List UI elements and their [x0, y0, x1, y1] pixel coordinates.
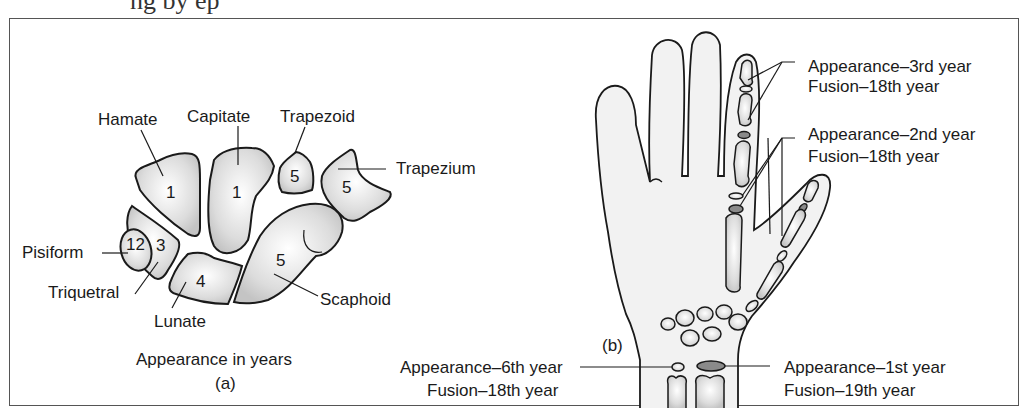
capitate-label: Capitate	[187, 107, 250, 126]
annotation-ulna-appearance: Appearance–6th year	[400, 358, 563, 377]
proximal-phalanx	[734, 141, 750, 186]
trapezoid-year: 5	[290, 167, 299, 186]
triquetral-label: Triquetral	[48, 283, 119, 302]
lunate-bone	[169, 253, 242, 304]
metacarpal	[726, 214, 742, 292]
annotation-proximal-fusion: Fusion–18th year	[808, 147, 940, 166]
lunate-year: 4	[196, 272, 205, 291]
panel-a-caption: Appearance in years	[136, 350, 292, 369]
hamate-year: 1	[166, 183, 175, 202]
triquetral-year: 3	[156, 236, 165, 255]
carpal	[681, 330, 699, 346]
lunate-label: Lunate	[154, 312, 206, 331]
ulna-epiphysis	[672, 363, 684, 371]
hamate-label: Hamate	[98, 110, 158, 129]
trapezoid-label: Trapezoid	[280, 107, 355, 126]
distal-phalanx	[740, 60, 752, 85]
carpal	[676, 310, 694, 326]
epiphysis-middle	[738, 132, 750, 139]
radius	[696, 376, 725, 408]
scaphoid-label: Scaphoid	[320, 290, 391, 309]
epiphysis-proximal	[729, 193, 743, 199]
panel-b-hand: Appearance–3rd year Fusion–18th year App…	[400, 32, 976, 408]
annotation-distal-appearance: Appearance–3rd year	[808, 57, 972, 76]
carpal	[703, 327, 721, 341]
panel-a-label: (a)	[215, 374, 236, 393]
carpal	[661, 318, 675, 330]
panel-b-label: (b)	[602, 336, 623, 355]
carpal	[716, 305, 732, 319]
annotation-radius-appearance: Appearance–1st year	[784, 358, 946, 377]
trapezium-label: Trapezium	[396, 159, 476, 178]
carpal	[729, 314, 747, 330]
epiphysis-metacarpal-head	[729, 205, 743, 213]
ulna	[668, 376, 687, 408]
epiphysis-distal	[740, 86, 752, 92]
capitate-year: 1	[232, 183, 241, 202]
pisiform-year: 12	[126, 235, 145, 254]
scaphoid-year: 5	[276, 251, 285, 270]
pisiform-label: Pisiform	[22, 243, 83, 262]
trapezium-year: 5	[342, 178, 351, 197]
panel-a-carpal-bones: 1 1 5 5 12 3 4 5 Hamate Capitate Trapezo…	[22, 107, 476, 393]
carpal	[697, 307, 713, 321]
annotation-ulna-fusion: Fusion–18th year	[427, 381, 559, 400]
radius-epiphysis	[697, 361, 725, 371]
annotation-proximal-appearance: Appearance–2nd year	[808, 125, 976, 144]
carpal-ossification-diagram: 1 1 5 5 12 3 4 5 Hamate Capitate Trapezo…	[0, 0, 1024, 415]
middle-phalanx	[738, 94, 752, 126]
annotation-distal-fusion: Fusion–18th year	[808, 77, 940, 96]
annotation-radius-fusion: Fusion–19th year	[784, 381, 916, 400]
